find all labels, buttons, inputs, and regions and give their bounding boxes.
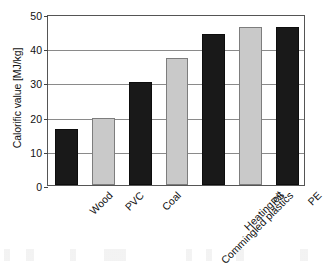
x-axis-tick-label: Wood: [87, 189, 115, 217]
bar-series: [48, 16, 304, 185]
y-axis-tick-label: 20: [30, 113, 42, 125]
bar-heating-oil: [202, 34, 225, 185]
plot-area: 01020304050: [47, 15, 305, 186]
bar-commingled-plastics: [166, 58, 189, 185]
bar-pe: [276, 27, 299, 185]
x-axis-tick-label: Coal: [159, 189, 183, 213]
y-axis-tick-label: 50: [30, 10, 42, 22]
y-axis-tick-label: 0: [36, 181, 42, 193]
y-axis-tick-label: 40: [30, 44, 42, 56]
page-caption-fragment: [0, 249, 319, 261]
bar-coal: [129, 82, 152, 185]
x-axis-tick-labels: WoodPVCCoalCommingled plasticsHeating oi…: [47, 187, 305, 257]
x-axis-tick-label: PE: [305, 189, 323, 207]
y-axis-tick-label: 10: [30, 147, 42, 159]
y-axis-tick-label: 30: [30, 78, 42, 90]
y-axis-title: Calorific value [MJ/kg]: [11, 18, 23, 178]
bar-ps: [239, 27, 262, 185]
bar-pvc: [92, 118, 115, 185]
x-axis-tick-label: PVC: [123, 189, 147, 213]
bar-wood: [55, 129, 78, 185]
